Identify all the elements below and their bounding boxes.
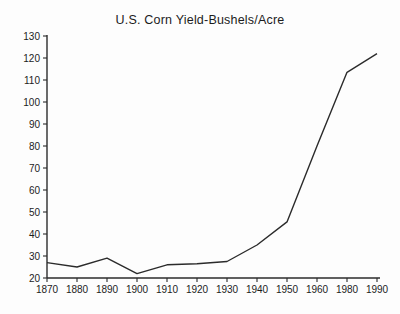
x-tick-label: 1910 <box>156 284 179 295</box>
x-tick-label: 1940 <box>246 284 269 295</box>
y-tick-label: 70 <box>29 163 41 174</box>
x-tick-label: 1880 <box>66 284 89 295</box>
y-tick-label: 40 <box>29 229 41 240</box>
x-tick-label: 1950 <box>276 284 299 295</box>
x-tick-label: 1990 <box>366 284 389 295</box>
y-tick-label: 20 <box>29 273 41 284</box>
line-chart: U.S. Corn Yield-Bushels/Acre 20304050607… <box>0 0 400 314</box>
corn-yield-chart-figure: U.S. Corn Yield-Bushels/Acre 20304050607… <box>0 0 400 314</box>
y-tick-label: 130 <box>23 31 40 42</box>
axes <box>43 35 380 282</box>
y-tick-label: 110 <box>24 75 40 86</box>
x-tick-label: 1920 <box>186 284 209 295</box>
x-tick-label: 1870 <box>36 284 59 295</box>
y-tick-label: 90 <box>29 119 41 130</box>
x-tick-label: 1960 <box>306 284 329 295</box>
x-tick-label: 1890 <box>96 284 119 295</box>
y-tick-label: 50 <box>29 207 41 218</box>
x-tick-label: 1930 <box>216 284 239 295</box>
data-series-line <box>47 54 377 274</box>
y-tick-label: 100 <box>23 97 40 108</box>
x-tick-label: 1900 <box>126 284 149 295</box>
tick-labels: 2030405060708090100110120130187018801890… <box>23 31 388 296</box>
y-tick-label: 60 <box>29 185 41 196</box>
y-tick-label: 120 <box>23 53 40 64</box>
y-tick-label: 30 <box>29 251 41 262</box>
chart-title: U.S. Corn Yield-Bushels/Acre <box>116 13 285 27</box>
y-tick-label: 80 <box>29 141 41 152</box>
x-tick-label: 1980 <box>336 284 359 295</box>
